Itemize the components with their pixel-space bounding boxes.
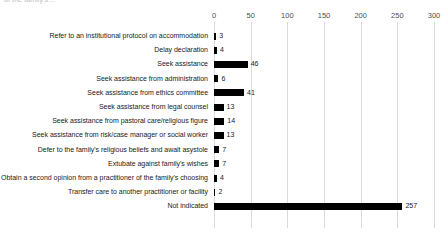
bar — [214, 61, 248, 68]
bar-row: Refer to an institutional protocol on ac… — [0, 29, 448, 43]
bar — [214, 132, 224, 139]
x-axis-tick-labels: 050100150200250300 — [214, 11, 434, 21]
horizontal-bar-chart: of the family’s… 050100150200250300 Refe… — [0, 0, 448, 234]
bar — [214, 118, 224, 125]
category-label: Defer to the family's religious beliefs … — [0, 143, 208, 157]
category-label: Transfer care to another practitioner or… — [0, 185, 208, 199]
bar — [214, 89, 244, 96]
bar — [214, 203, 402, 210]
category-label: Seek assistance from administration — [0, 72, 208, 86]
bar-value-label: 4 — [220, 43, 224, 57]
bar — [214, 75, 218, 82]
bar-row: Seek assistance from risk/case manager o… — [0, 128, 448, 142]
bar — [214, 104, 224, 111]
bar-row: Seek assistance from legal counsel13 — [0, 100, 448, 114]
bar-row: Transfer care to another practitioner or… — [0, 185, 448, 199]
x-tick-label-300: 300 — [428, 11, 441, 21]
x-tick-label-0: 0 — [212, 11, 216, 21]
bar-value-label: 6 — [221, 72, 225, 86]
category-label: Obtain a second opinion from a practitio… — [0, 171, 208, 185]
bar-value-label: 13 — [227, 128, 235, 142]
category-label: Seek assistance from risk/case manager o… — [0, 128, 208, 142]
bar-value-label: 41 — [247, 86, 255, 100]
category-label: Seek assistance from pastoral care/relig… — [0, 114, 208, 128]
bar-value-label: 257 — [405, 199, 417, 213]
category-label: Extubate against family's wishes — [0, 157, 208, 171]
bar-row: Seek assistance46 — [0, 57, 448, 71]
bar-row: Obtain a second opinion from a practitio… — [0, 171, 448, 185]
bar-row: Seek assistance from administration6 — [0, 72, 448, 86]
category-label: Seek assistance from ethics committee — [0, 86, 208, 100]
bar — [214, 160, 219, 167]
bar-row: Extubate against family's wishes7 — [0, 157, 448, 171]
bar — [214, 189, 215, 196]
x-tick-label-100: 100 — [281, 11, 294, 21]
bar-value-label: 3 — [219, 29, 223, 43]
bar-value-label: 46 — [251, 57, 259, 71]
x-tick-label-250: 250 — [391, 11, 404, 21]
bar-value-label: 14 — [227, 114, 235, 128]
clipped-caption-text: of the family’s… — [4, 0, 55, 4]
category-label: Seek assistance — [0, 57, 208, 71]
bar — [214, 175, 217, 182]
bar-value-label: 4 — [220, 171, 224, 185]
category-label: Not indicated — [0, 199, 208, 213]
x-tick-label-150: 150 — [318, 11, 331, 21]
bar — [214, 33, 216, 40]
bar-row: Not indicated257 — [0, 199, 448, 213]
category-label: Seek assistance from legal counsel — [0, 100, 208, 114]
bar — [214, 146, 219, 153]
bar-row: Seek assistance from ethics committee41 — [0, 86, 448, 100]
x-tick-label-200: 200 — [354, 11, 367, 21]
bar-rows: Refer to an institutional protocol on ac… — [0, 22, 448, 228]
bar — [214, 47, 217, 54]
bar-value-label: 13 — [227, 100, 235, 114]
bar-row: Delay declaration4 — [0, 43, 448, 57]
category-label: Delay declaration — [0, 43, 208, 57]
x-tick-label-50: 50 — [246, 11, 254, 21]
bar-row: Defer to the family's religious beliefs … — [0, 143, 448, 157]
bar-row: Seek assistance from pastoral care/relig… — [0, 114, 448, 128]
bar-value-label: 2 — [218, 185, 222, 199]
bar-value-label: 7 — [222, 157, 226, 171]
category-label: Refer to an institutional protocol on ac… — [0, 29, 208, 43]
bar-value-label: 7 — [222, 143, 226, 157]
